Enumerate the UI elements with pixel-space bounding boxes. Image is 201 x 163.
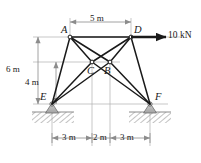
node-label-A: A xyxy=(61,25,67,36)
member-C-F xyxy=(92,62,150,104)
member-D-B xyxy=(110,37,131,62)
joint-C xyxy=(90,60,94,64)
node-label-F: F xyxy=(155,92,161,103)
node-label-B: B xyxy=(104,66,110,77)
dimension-label-left-6m: 6 m xyxy=(6,65,20,74)
dimension-label-bottom-2m: 2 m xyxy=(93,133,107,142)
truss-members xyxy=(52,37,150,104)
truss-joints xyxy=(68,35,133,64)
dimension-label-bottom-3m-left: 3 m xyxy=(62,133,76,142)
member-A-B xyxy=(70,37,110,62)
ground-support-F xyxy=(129,102,171,123)
dimension-label-bottom-3m-right: 3 m xyxy=(120,133,134,142)
node-label-C: C xyxy=(87,66,94,77)
joint-B xyxy=(108,60,112,64)
node-label-D: D xyxy=(134,25,142,36)
truss-diagram-figure: A D C B E F 5 m 6 m 4 m 3 m 2 m 3 m 10 k… xyxy=(0,0,201,163)
node-label-E: E xyxy=(40,92,46,103)
dimension-label-top-5m: 5 m xyxy=(90,14,104,23)
joint-A xyxy=(68,35,72,39)
ground-support-E xyxy=(32,102,74,123)
load-label-10kN: 10 kN xyxy=(168,31,192,41)
dimension-label-left-4m: 4 m xyxy=(25,78,39,87)
member-D-C xyxy=(92,37,131,62)
